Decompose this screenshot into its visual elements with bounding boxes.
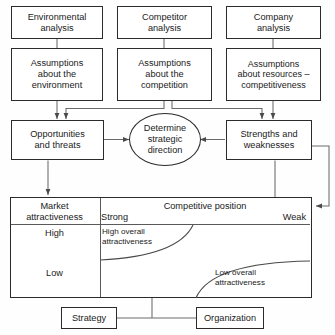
box-label: Strategy xyxy=(70,313,108,324)
box-label: Assumptions about resources – competitiv… xyxy=(235,59,311,91)
matrix-horizontal-divider-header xyxy=(11,224,310,225)
box-company-analysis[interactable]: Company analysis xyxy=(226,6,321,39)
box-environmental-analysis[interactable]: Environmental analysis xyxy=(11,6,103,39)
box-label: Strengths and weaknesses xyxy=(238,129,299,151)
box-opportunities-and-threats[interactable]: Opportunities and threats xyxy=(11,120,104,160)
box-assumptions-resources[interactable]: Assumptions about resources – competitiv… xyxy=(226,48,321,101)
box-label: Company analysis xyxy=(252,12,295,34)
box-strengths-and-weaknesses[interactable]: Strengths and weaknesses xyxy=(226,120,312,160)
box-competitor-analysis[interactable]: Competitor analysis xyxy=(117,6,212,39)
matrix-row-low: Low xyxy=(10,268,99,279)
zone-low-overall-attractiveness: Low overall attractiveness xyxy=(215,268,310,287)
box-organization[interactable]: Organization xyxy=(196,307,264,329)
box-assumptions-environment[interactable]: Assumptions about the environment xyxy=(11,48,103,101)
connector-assumptions-comp-to-right xyxy=(172,101,262,120)
matrix-row-header-market-attractiveness: Market attractiveness xyxy=(10,201,99,223)
box-label: Organization xyxy=(202,313,258,324)
box-label: Assumptions about the environment xyxy=(29,58,86,91)
matrix-column-strong: Strong xyxy=(101,212,171,223)
box-strategy[interactable]: Strategy xyxy=(61,307,117,329)
box-label: Opportunities and threats xyxy=(28,129,87,151)
box-label: Environmental analysis xyxy=(26,12,89,34)
ellipse-determine-strategic-direction[interactable]: Determine strategic direction xyxy=(129,113,201,166)
matrix-col-header-competitive-position: Competitive position xyxy=(99,201,311,212)
diagram-canvas: Environmental analysis Competitor analys… xyxy=(0,0,335,335)
connector-strengths-to-matrix-right xyxy=(312,146,329,206)
box-label: Competitor analysis xyxy=(140,12,189,34)
matrix-column-weak: Weak xyxy=(240,212,306,223)
ellipse-label: Determine strategic direction xyxy=(144,123,186,156)
box-assumptions-competition[interactable]: Assumptions about the competition xyxy=(117,48,212,101)
zone-high-overall-attractiveness: High overall attractiveness xyxy=(102,227,197,246)
matrix-row-high: High xyxy=(10,228,99,239)
box-label: Assumptions about the competition xyxy=(136,58,193,91)
